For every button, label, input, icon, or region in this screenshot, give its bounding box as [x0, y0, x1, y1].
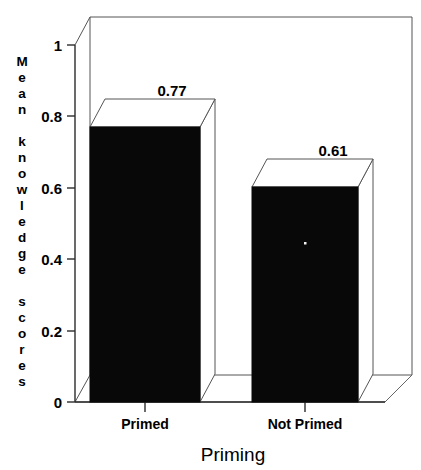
bar-primed-front [90, 127, 200, 402]
x-axis-title: Priming [201, 444, 265, 465]
white-speck-artifact [304, 242, 307, 245]
y-axis: 1 0.8 0.6 0.4 0.2 0 [41, 37, 75, 411]
bar-not-primed-front [252, 187, 358, 402]
bar-not-primed-side [358, 159, 373, 402]
y-tick-label-08: 0.8 [41, 108, 62, 125]
ylabel-char: n [18, 150, 26, 165]
x-axis [75, 402, 385, 412]
ylabel-char: n [18, 102, 26, 117]
bar-primed-side [200, 99, 215, 402]
ylabel-char: d [18, 230, 26, 245]
y-tick-label-1: 1 [54, 37, 62, 54]
ylabel-char: l [20, 198, 24, 213]
ylabel-char: s [18, 374, 26, 389]
depth-edge-top-left [75, 17, 90, 45]
data-label-not-primed: 0.61 [318, 142, 347, 159]
ylabel-char: e [18, 358, 26, 373]
y-tick-label-02: 0.2 [41, 323, 62, 340]
ylabel-char: a [18, 86, 26, 101]
category-labels: Primed Not Primed [121, 416, 342, 432]
bar-not-primed-top [252, 159, 373, 187]
depth-edge-bottom-left [75, 375, 90, 402]
ylabel-char: o [18, 166, 26, 181]
bar-primed[interactable] [90, 99, 215, 402]
bar-not-primed[interactable] [252, 159, 373, 402]
bar-chart-figure: 1 0.8 0.6 0.4 0.2 0 0.77 [0, 0, 421, 470]
y-tick-label-06: 0.6 [41, 180, 62, 197]
chart-canvas: 1 0.8 0.6 0.4 0.2 0 0.77 [0, 0, 421, 470]
ylabel-char: k [18, 134, 26, 149]
ylabel-char: s [18, 294, 26, 309]
bar-primed-top [90, 99, 215, 127]
ylabel-char: e [18, 262, 26, 277]
ylabel-char: c [18, 310, 26, 325]
floor-right-edge [385, 375, 412, 402]
ylabel-char: M [16, 54, 27, 69]
ylabel-char: r [19, 342, 25, 357]
ylabel-char: g [18, 246, 26, 261]
ylabel-char: w [16, 182, 28, 197]
y-tick-label-04: 0.4 [41, 251, 63, 268]
ylabel-char: e [18, 70, 26, 85]
x-label-primed: Primed [121, 416, 168, 432]
data-label-primed: 0.77 [157, 82, 186, 99]
ylabel-char: e [18, 214, 26, 229]
ylabel-char: o [18, 326, 26, 341]
y-axis-title: M e a n k n o w l e d g e s c o r e s [16, 54, 28, 389]
y-tick-label-0: 0 [54, 394, 62, 411]
x-label-not-primed: Not Primed [268, 416, 343, 432]
